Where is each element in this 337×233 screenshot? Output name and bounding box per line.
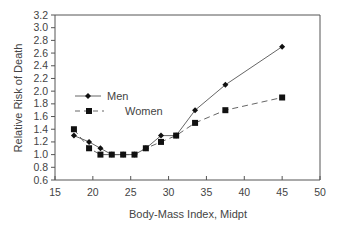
square-marker-icon bbox=[132, 152, 138, 158]
series-men bbox=[71, 44, 285, 158]
x-tick-label: 20 bbox=[87, 186, 99, 198]
y-tick-label: 2.8 bbox=[33, 34, 48, 46]
y-tick-label: 1.6 bbox=[33, 110, 48, 122]
y-axis-title: Relative Risk of Death bbox=[12, 44, 24, 153]
diamond-marker-icon bbox=[279, 44, 285, 50]
diamond-marker-icon bbox=[71, 133, 77, 139]
y-tick-label: 3.2 bbox=[33, 9, 48, 21]
legend-item-men: Men bbox=[75, 90, 128, 102]
square-marker-icon bbox=[71, 126, 77, 132]
square-marker-icon bbox=[192, 120, 198, 126]
y-tick-label: 2.0 bbox=[33, 85, 48, 97]
x-axis: 1520253035404550 bbox=[49, 176, 326, 198]
y-tick-label: 1.0 bbox=[33, 148, 48, 160]
y-tick-label: 1.4 bbox=[33, 123, 48, 135]
y-tick-label: 0.6 bbox=[33, 174, 48, 186]
y-tick-label: 3.0 bbox=[33, 21, 48, 33]
legend: Men Women bbox=[75, 90, 163, 117]
square-marker-icon bbox=[158, 139, 164, 145]
y-tick-label: 0.8 bbox=[33, 161, 48, 173]
y-axis: 0.60.81.01.21.41.61.82.02.22.42.62.83.03… bbox=[33, 9, 55, 186]
x-tick-label: 25 bbox=[125, 186, 137, 198]
legend-label-men: Men bbox=[107, 90, 128, 102]
series-line bbox=[74, 98, 282, 155]
diamond-marker-icon bbox=[85, 93, 91, 99]
diamond-marker-icon bbox=[97, 145, 103, 151]
square-marker-icon bbox=[222, 107, 228, 113]
x-axis-title: Body-Mass Index, Midpt bbox=[129, 208, 247, 220]
y-tick-label: 2.4 bbox=[33, 59, 48, 71]
y-tick-label: 1.8 bbox=[33, 97, 48, 109]
square-marker-icon bbox=[143, 145, 149, 151]
square-marker-icon bbox=[97, 152, 103, 158]
square-marker-icon bbox=[279, 95, 285, 101]
square-marker-icon bbox=[86, 145, 92, 151]
square-marker-icon bbox=[120, 152, 126, 158]
square-marker-icon bbox=[109, 152, 115, 158]
legend-item-women: Women bbox=[75, 105, 163, 117]
series-layer bbox=[71, 44, 285, 158]
x-tick-label: 50 bbox=[314, 186, 326, 198]
diamond-marker-icon bbox=[86, 139, 92, 145]
x-tick-label: 30 bbox=[163, 186, 175, 198]
y-tick-label: 2.2 bbox=[33, 72, 48, 84]
x-tick-label: 35 bbox=[201, 186, 213, 198]
square-marker-icon bbox=[173, 133, 179, 139]
chart: 0.60.81.01.21.41.61.82.02.22.42.62.83.03… bbox=[0, 0, 337, 233]
square-marker-icon bbox=[86, 108, 92, 114]
x-tick-label: 40 bbox=[238, 186, 250, 198]
x-tick-label: 15 bbox=[49, 186, 61, 198]
y-tick-label: 2.6 bbox=[33, 47, 48, 59]
x-tick-label: 45 bbox=[276, 186, 288, 198]
legend-label-women: Women bbox=[125, 105, 163, 117]
y-tick-label: 1.2 bbox=[33, 135, 48, 147]
